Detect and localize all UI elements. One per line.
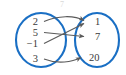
codomain-element-7: 7	[95, 32, 100, 43]
domain-element-3: 3	[26, 54, 38, 65]
diagram-canvas	[0, 0, 126, 75]
top-artifact-glyph: 7	[60, 1, 64, 9]
codomain-element-1: 1	[95, 17, 100, 28]
arrow-2-to-1	[44, 17, 84, 22]
domain-element-5: 5	[26, 28, 38, 39]
domain-element-2: 2	[26, 17, 38, 28]
codomain-element-20: 20	[89, 53, 100, 64]
domain-element-minus1: −1	[20, 39, 38, 50]
arrow-3-to-20	[44, 58, 81, 63]
mapping-diagram-figure: 7 2 5 −1 3 1 7 20	[0, 0, 126, 75]
